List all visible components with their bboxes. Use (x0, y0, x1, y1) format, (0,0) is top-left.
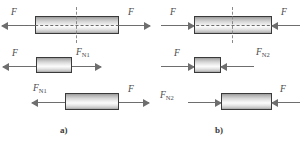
caption-b: b) (215, 125, 223, 135)
arrow-head (143, 99, 150, 107)
center-axis-b1 (181, 25, 285, 26)
label-a2-right-symbol: F (76, 47, 82, 57)
force-arrow-b3-left (188, 98, 221, 107)
label-a2-right-subscript: N1 (82, 51, 90, 58)
label-b3-left-subscript: N2 (166, 94, 174, 101)
bar-a-left-segment (36, 57, 72, 73)
label-a2-right-fn1: FN1 (76, 48, 90, 58)
arrow-head (2, 63, 9, 71)
label-a3-left-subscript: N1 (39, 87, 47, 94)
label-a3-right: F (128, 85, 134, 95)
label-b3-left-symbol: F (160, 90, 166, 100)
arrow-head (1, 22, 8, 30)
arrow-head (271, 22, 278, 30)
force-arrow-a2-left (3, 62, 36, 71)
label-a3-left-fn1: FN1 (33, 84, 47, 94)
force-arrow-b1-right (272, 21, 300, 30)
label-b2-right-symbol: F (256, 47, 262, 57)
bar-a-right-segment (65, 93, 119, 110)
label-b2-right-fn2: FN2 (256, 48, 270, 58)
force-arrow-b2-right (221, 62, 254, 71)
center-axis-a1 (20, 25, 134, 26)
label-a1-right: F (128, 8, 134, 18)
arrow-head (144, 22, 151, 30)
force-arrow-a3-right (119, 98, 149, 107)
figure-canvas: F F F (0, 0, 303, 146)
label-a2-left: F (12, 49, 18, 59)
section-cut-a1 (76, 7, 77, 43)
bar-b-right-segment (221, 93, 272, 110)
label-b1-left: F (170, 8, 176, 18)
force-arrow-a1-right (119, 21, 150, 30)
force-arrow-b3-right (272, 98, 300, 107)
force-arrow-a3-left (32, 98, 65, 107)
force-arrow-a2-right (72, 62, 101, 71)
arrow-head (31, 99, 38, 107)
force-arrow-b2-left (161, 62, 194, 71)
label-a3-left-symbol: F (33, 83, 39, 93)
arrow-head (220, 63, 227, 71)
caption-a: a) (60, 125, 68, 135)
label-b2-left: F (174, 49, 180, 59)
label-b3-right: F (280, 85, 286, 95)
panel-b-compression: F F F FN2 (151, 0, 302, 146)
panel-a-tension: F F F (0, 0, 151, 146)
bar-b-left-segment (194, 57, 221, 73)
section-cut-b1 (232, 7, 233, 43)
label-b1-right: F (281, 8, 287, 18)
label-b3-left-fn2: FN2 (160, 91, 174, 101)
label-b2-right-subscript: N2 (262, 51, 270, 58)
arrow-head (95, 63, 102, 71)
arrow-head (271, 99, 278, 107)
label-a1-left: F (11, 8, 17, 18)
